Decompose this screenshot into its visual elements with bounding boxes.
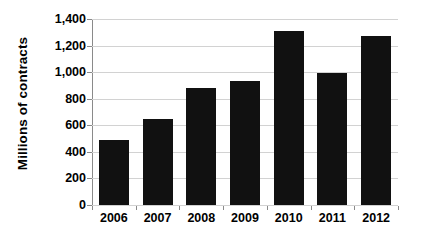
x-tick-mark: [92, 206, 93, 210]
bar-2009: [230, 81, 260, 205]
y-tick-label: 400: [26, 146, 86, 159]
x-tick-mark: [136, 206, 137, 210]
x-tick-mark: [179, 206, 180, 210]
y-tick-label: 1,000: [26, 66, 86, 79]
x-tick-label-2012: 2012: [350, 212, 402, 225]
plot-area: [92, 19, 398, 205]
grid-line: [92, 205, 398, 206]
y-tick-mark: [87, 178, 92, 179]
y-tick-mark: [87, 125, 92, 126]
bar-2012: [361, 36, 391, 205]
y-tick-label: 1,400: [26, 13, 86, 26]
y-tick-mark: [87, 19, 92, 20]
y-tick-label: 800: [26, 93, 86, 106]
grid-line: [92, 72, 398, 73]
x-tick-mark: [398, 206, 399, 210]
x-tick-mark: [223, 206, 224, 210]
bar-2010: [274, 31, 304, 205]
y-tick-mark: [87, 72, 92, 73]
y-tick-label: 600: [26, 119, 86, 132]
x-tick-mark: [311, 206, 312, 210]
y-tick-mark: [87, 46, 92, 47]
y-tick-mark: [87, 99, 92, 100]
y-tick-label: 1,200: [26, 40, 86, 53]
y-tick-mark: [87, 152, 92, 153]
y-tick-label: 200: [26, 172, 86, 185]
bar-2008: [186, 88, 216, 205]
grid-line: [92, 19, 398, 20]
y-tick-label: 0: [26, 199, 86, 212]
grid-line: [92, 46, 398, 47]
bar-2007: [143, 119, 173, 205]
x-tick-mark: [267, 206, 268, 210]
bar-2006: [99, 140, 129, 205]
bar-2011: [317, 73, 347, 205]
x-tick-mark: [354, 206, 355, 210]
bar-chart: Millions of contracts 02004006008001,000…: [0, 0, 424, 241]
